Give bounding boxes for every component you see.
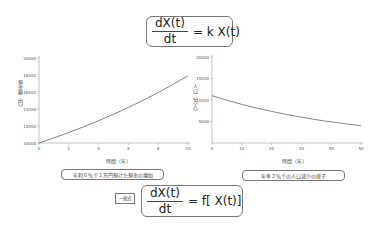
y-tick-label: 10000 <box>23 141 36 146</box>
x-tick-label: 40 <box>329 146 335 151</box>
general-form-tag: 一般式 <box>115 193 135 204</box>
x-tick-label: 2 <box>68 146 71 151</box>
y-tick-label: 14000 <box>23 107 36 112</box>
left-y-axis-label: 預金額（円） <box>17 80 24 110</box>
y-tick-label: 5000 <box>199 119 210 124</box>
y-tick-label: 20000 <box>196 55 209 60</box>
x-tick-label: 0 <box>211 146 214 151</box>
y-tick-label: 18000 <box>23 73 36 78</box>
y-tick-label: 16000 <box>23 90 36 95</box>
equation-general: dX(t) dt = f[ X(t)] <box>141 185 243 217</box>
equation-rhs: = f[ X(t)] <box>188 194 242 208</box>
right-y-axis-label: 人口（万人） <box>192 84 199 114</box>
x-tick-label: 10 <box>185 146 191 151</box>
y-tick-label: 20000 <box>23 56 36 61</box>
fraction: dX(t) dt <box>147 187 183 216</box>
data-line <box>212 96 361 126</box>
x-tick-label: 50 <box>358 146 364 151</box>
denominator: dt <box>159 202 171 216</box>
right-x-axis-label: 時間（年） <box>282 157 307 164</box>
left-x-axis-label: 時間（年） <box>106 157 131 164</box>
x-tick-label: 20 <box>269 146 275 151</box>
x-tick-label: 4 <box>97 146 100 151</box>
x-tick-label: 30 <box>299 146 305 151</box>
right-chart-caption: 年率２％での人口減少の様子 <box>242 170 345 181</box>
x-tick-label: 10 <box>239 146 245 151</box>
x-tick-label: 0 <box>38 146 41 151</box>
y-tick-label: 15000 <box>196 76 209 81</box>
x-tick-label: 8 <box>157 146 160 151</box>
numerator: dX(t) <box>147 187 183 202</box>
left-chart-caption: 年利６％で１万円預けた預金の増加 <box>61 169 164 180</box>
y-tick-label: 12000 <box>23 124 36 129</box>
data-line <box>39 76 188 143</box>
x-tick-label: 6 <box>127 146 130 151</box>
